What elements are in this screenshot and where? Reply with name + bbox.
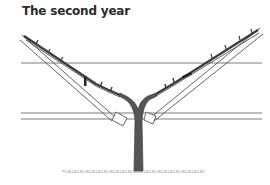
trellis-illustration — [0, 0, 270, 185]
right-trellis-arm — [144, 28, 263, 124]
left-trellis-arm — [20, 35, 127, 126]
vine-trunk — [119, 93, 157, 171]
right-cane — [156, 29, 259, 96]
left-cane — [24, 36, 120, 97]
left-pruning-mark — [84, 77, 87, 86]
